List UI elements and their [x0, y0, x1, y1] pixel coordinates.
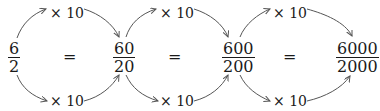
- bottom-label-1: × 10: [50, 94, 84, 108]
- bottom-arrow-2b: [194, 75, 228, 101]
- top-label-1: × 10: [50, 6, 84, 20]
- top-arrow-2a: [126, 9, 156, 37]
- equals-sign-2: =: [168, 49, 181, 65]
- bottom-arrow-2a: [126, 75, 158, 101]
- top-arrow-3a: [240, 9, 270, 37]
- fraction-1: 6 2: [8, 40, 20, 75]
- top-label-2: × 10: [160, 6, 194, 20]
- bottom-arrow-1a: [17, 75, 47, 101]
- numerator: 6: [8, 40, 20, 58]
- bottom-arrow-3b: [307, 76, 350, 101]
- top-arrow-2b: [194, 9, 228, 37]
- bottom-label-3: × 10: [273, 94, 307, 108]
- top-label-3: × 10: [273, 6, 307, 20]
- fraction-3: 600 200: [222, 40, 255, 75]
- denominator: 200: [222, 58, 255, 75]
- top-arrow-3b: [307, 9, 352, 36]
- denominator: 2000: [336, 58, 379, 75]
- denominator: 2: [8, 58, 20, 75]
- bottom-arrow-3a: [240, 75, 270, 101]
- equals-sign-3: =: [283, 49, 296, 65]
- equals-sign-1: =: [63, 49, 76, 65]
- top-arrow-1b: [84, 9, 119, 37]
- bottom-arrow-1b: [84, 75, 119, 101]
- numerator: 6000: [336, 40, 379, 58]
- fraction-2: 60 20: [113, 40, 135, 75]
- numerator: 600: [222, 40, 255, 58]
- top-arrow-1a: [17, 9, 46, 38]
- bottom-label-2: × 10: [160, 94, 194, 108]
- denominator: 20: [113, 58, 135, 75]
- fraction-4: 6000 2000: [336, 40, 379, 75]
- numerator: 60: [113, 40, 135, 58]
